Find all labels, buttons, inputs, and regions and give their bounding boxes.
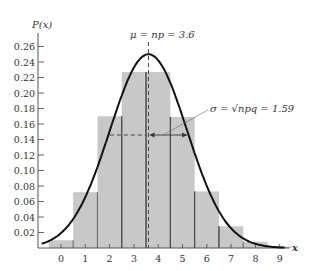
x-tick-label: 6 <box>204 253 210 264</box>
y-tick-label: 0.16 <box>14 119 35 130</box>
sigma-annotation: σ = √npq = 1.59 <box>210 103 295 114</box>
x-tick-label: 3 <box>131 253 137 264</box>
y-tick-label: 0.20 <box>14 88 35 99</box>
y-tick-label: 0.14 <box>14 134 35 145</box>
y-tick-label: 0.12 <box>14 150 35 161</box>
y-tick-label: 0.26 <box>14 41 35 52</box>
x-axis-label: x <box>291 242 299 253</box>
y-axis-label: P(x) <box>31 19 52 30</box>
bar-6 <box>195 191 219 248</box>
bar-1 <box>73 192 97 248</box>
histogram-bars <box>49 72 292 248</box>
x-tick-label: 0 <box>58 253 64 264</box>
mean-annotation: μ = np = 3.6 <box>130 29 195 40</box>
x-tick-label: 5 <box>179 253 185 264</box>
x-tick-label: 4 <box>155 253 161 264</box>
bar-3 <box>122 72 146 248</box>
y-tick-label: 0.02 <box>14 227 35 238</box>
y-tick-label: 0.06 <box>14 196 35 207</box>
x-tick-label: 7 <box>228 253 234 264</box>
x-tick-label: 8 <box>252 253 258 264</box>
y-tick-label: 0.24 <box>14 57 35 68</box>
bar-2 <box>97 116 121 248</box>
x-tick-label: 9 <box>277 253 283 264</box>
bar-4 <box>146 72 170 248</box>
y-tick-label: 0.18 <box>14 103 35 114</box>
y-tick-label: 0.08 <box>14 181 35 192</box>
x-tick-label: 1 <box>82 253 88 264</box>
y-tick-label: 0.04 <box>14 212 35 223</box>
y-tick-label: 0.22 <box>14 72 35 83</box>
binomial-histogram-chart: 0.020.040.060.080.100.120.140.160.180.20… <box>0 0 320 271</box>
y-tick-label: 0.10 <box>14 165 35 176</box>
x-tick-label: 2 <box>107 253 113 264</box>
